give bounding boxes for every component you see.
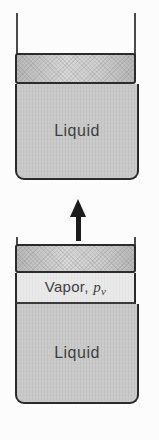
up-arrow-shaft [76,215,81,241]
top-container-piston [15,53,136,84]
vapor-pressure-diagram: Liquid Vapor, pv Liquid [0,0,159,440]
bottom-container-vapor: Vapor, pv [15,273,136,304]
bottom-container-liquid: Liquid [15,304,139,404]
bottom-liquid-label: Liquid [54,344,100,362]
top-container-left-wall [16,13,18,58]
vapor-pressure-subscript: v [101,285,106,297]
vapor-pressure-symbol: p [93,279,101,295]
top-liquid-label: Liquid [54,122,100,140]
vapor-label: Vapor, pv [45,278,107,297]
vapor-label-text: Vapor, [45,278,94,295]
up-arrow-head [70,199,86,217]
top-container-right-wall [134,13,136,58]
bottom-container-piston [15,244,136,273]
top-container-liquid: Liquid [15,84,139,180]
